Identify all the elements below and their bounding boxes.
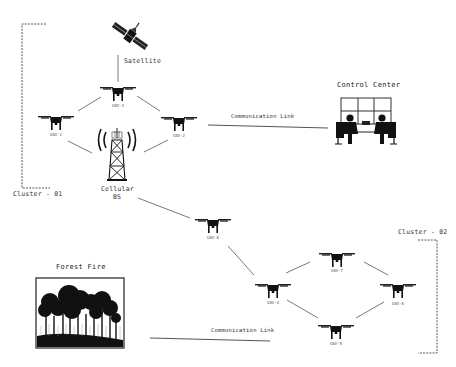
uav7-drone-icon — [319, 253, 355, 267]
link-uav8-uav4 — [228, 246, 254, 275]
network-diagram — [0, 0, 456, 367]
uav7-label: UAV-7 — [317, 268, 357, 273]
cluster-01-label: Cluster - 01 — [13, 190, 62, 198]
link-uav2-control — [208, 125, 328, 128]
control-center-label: Control Center — [337, 81, 400, 89]
uav8-drone-icon — [195, 219, 231, 233]
uav3-drone-icon — [100, 87, 136, 101]
link-uav7-uav6 — [364, 262, 388, 275]
cell-tower-icon — [99, 128, 136, 181]
link-uav1-cellular — [68, 141, 92, 153]
link-cellular-uav8 — [138, 198, 190, 218]
satellite-label: Satellite — [124, 57, 161, 65]
uav8-label: UAV-8 — [193, 235, 233, 240]
uav3-label: UAV-3 — [98, 103, 138, 108]
cluster-02-bracket — [418, 240, 437, 353]
control-room-icon — [335, 98, 397, 144]
link-uav4-uav7 — [286, 262, 310, 273]
forest-fire-label: Forest Fire — [56, 263, 106, 271]
cellular-label-line1: Cellular — [101, 185, 133, 193]
uav1-label: UAV-1 — [36, 132, 76, 137]
link-forest-uav4 — [150, 338, 270, 341]
uav5-label: UAV-5 — [316, 341, 356, 346]
comm-link-bottom-label: Communication Link — [211, 327, 274, 333]
satellite-icon — [110, 11, 155, 52]
uav1-drone-icon — [38, 116, 74, 130]
uav2-drone-icon — [161, 117, 197, 131]
link-uav2-cellular — [144, 140, 168, 152]
link-uav3-uav2 — [137, 96, 160, 111]
cellular-label-line2: BS — [101, 193, 133, 201]
cluster-02-label: Cluster - 02 — [398, 228, 447, 236]
cellular-label: Cellular BS — [101, 185, 133, 201]
uav2-label: UAV-2 — [159, 133, 199, 138]
comm-link-top-label: Communication Link — [231, 113, 294, 119]
uav4-label: UAV-4 — [253, 300, 293, 305]
uav5-drone-icon — [318, 325, 354, 339]
cluster-01-bracket — [22, 24, 50, 188]
uav6-drone-icon — [380, 284, 416, 298]
uav6-label: UAV-6 — [378, 301, 418, 306]
forest-image — [36, 278, 124, 348]
uav4-drone-icon — [255, 284, 291, 298]
